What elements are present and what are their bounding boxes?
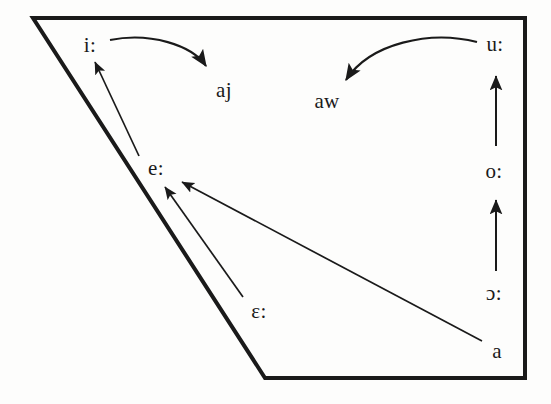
vowel-label-aw: aw [314,89,339,114]
vowel-label-a: a [492,339,502,364]
vowel-label-open-o-long: ɔ: [486,281,502,306]
shift-arrow-u-to-aw [346,38,477,80]
vowel-shift-diagram: i: aj aw u: e: o: ɛ: ɔ: a [0,0,551,404]
vowel-label-epsilon-long: ɛ: [251,299,266,324]
vowel-label-e-long: e: [148,156,164,181]
vowel-label-aj: aj [216,78,232,103]
shift-arrow-i-to-aj [110,38,206,66]
vowel-label-i-long: i: [84,33,96,58]
shift-arrow-e-to-i [95,62,139,156]
vowel-label-u-long: u: [487,32,504,57]
vowel-label-o-long: o: [486,159,503,184]
diagram-canvas [0,0,551,404]
